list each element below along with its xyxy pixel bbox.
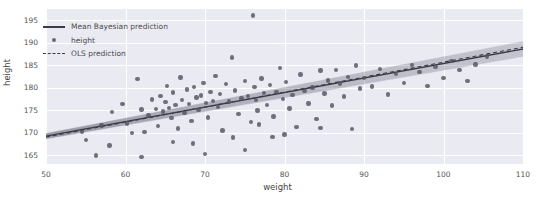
data-point	[178, 75, 182, 79]
data-point	[154, 107, 158, 111]
data-point	[182, 111, 186, 115]
x-axis-label: weight	[0, 182, 555, 192]
legend-label: Mean Bayesian prediction	[71, 22, 168, 31]
data-point	[465, 79, 469, 83]
data-point	[252, 85, 256, 89]
data-point	[449, 59, 453, 63]
data-point	[230, 55, 234, 59]
data-point	[204, 101, 208, 105]
legend-item-height: height	[43, 36, 168, 45]
data-point	[236, 112, 240, 116]
x-tick-label: 60	[106, 170, 146, 179]
data-point	[208, 90, 212, 94]
data-point	[314, 117, 318, 121]
legend-item-mean-bayesian-prediction: Mean Bayesian prediction	[43, 22, 168, 31]
data-point	[417, 70, 421, 74]
x-tick-label: 50	[26, 170, 66, 179]
data-point	[259, 76, 263, 80]
data-point	[265, 103, 269, 107]
data-point	[310, 85, 314, 89]
dot-marker-icon	[43, 36, 65, 45]
data-point	[394, 72, 398, 76]
data-point	[107, 143, 111, 147]
y-tick-label: 180	[8, 83, 38, 92]
y-tick-label: 185	[8, 61, 38, 70]
y-tick-label: 165	[8, 151, 38, 160]
data-point	[274, 90, 278, 94]
data-point	[370, 84, 374, 88]
data-point	[290, 93, 294, 97]
data-point	[216, 105, 220, 109]
data-point	[194, 95, 198, 99]
data-point	[270, 135, 274, 139]
data-point	[322, 91, 326, 95]
data-point	[425, 84, 429, 88]
data-point	[318, 68, 322, 72]
data-point	[206, 115, 210, 119]
data-point	[326, 78, 330, 82]
legend-item-ols-prediction: OLS prediction	[43, 49, 168, 58]
data-point	[231, 135, 235, 139]
data-point	[271, 114, 275, 118]
data-point	[199, 93, 203, 97]
y-axis-label: height	[2, 59, 12, 86]
data-point	[457, 68, 461, 72]
data-point	[354, 63, 358, 67]
data-point	[201, 81, 205, 85]
legend: Mean Bayesian prediction height OLS pred…	[38, 19, 173, 61]
data-point	[278, 66, 282, 70]
data-point	[146, 113, 150, 117]
data-point	[287, 106, 291, 110]
dashed-line-icon	[43, 49, 65, 58]
data-point	[358, 86, 362, 90]
data-point	[165, 84, 169, 88]
data-point	[318, 126, 322, 130]
legend-label: height	[71, 36, 95, 45]
data-point	[342, 94, 346, 98]
data-point	[243, 79, 247, 83]
data-point	[257, 122, 261, 126]
data-point	[84, 138, 88, 142]
data-point	[120, 102, 124, 106]
data-point	[185, 87, 189, 91]
data-point	[306, 101, 310, 105]
data-point	[473, 62, 477, 66]
data-point	[227, 99, 231, 103]
data-point	[255, 108, 259, 112]
y-tick-label: 175	[8, 106, 38, 115]
data-point	[158, 94, 162, 98]
data-point	[254, 98, 258, 102]
data-point	[441, 76, 445, 80]
data-point	[191, 141, 195, 145]
data-point	[161, 109, 165, 113]
data-point	[251, 13, 255, 17]
data-point	[135, 77, 139, 81]
data-point	[99, 123, 103, 127]
x-tick-label: 90	[344, 170, 384, 179]
data-point	[139, 107, 143, 111]
data-point	[294, 125, 298, 129]
regression-chart: 165170175180185190195 5060708090100110 h…	[0, 0, 555, 201]
data-point	[94, 153, 98, 157]
data-point	[239, 96, 243, 100]
data-point	[125, 121, 129, 125]
data-point	[298, 72, 302, 76]
data-point	[233, 88, 237, 92]
data-point	[176, 126, 180, 130]
legend-label: OLS prediction	[71, 49, 126, 58]
data-point	[139, 155, 143, 159]
x-tick-label: 110	[503, 170, 543, 179]
x-tick-label: 100	[424, 170, 464, 179]
data-point	[150, 97, 154, 101]
data-point	[302, 89, 306, 93]
solid-line-icon	[43, 22, 65, 31]
data-point	[282, 132, 286, 136]
data-point	[378, 67, 382, 71]
data-point	[213, 74, 217, 78]
y-tick-label: 170	[8, 128, 38, 137]
y-tick-label: 195	[8, 16, 38, 25]
data-point	[163, 100, 167, 104]
data-point	[224, 82, 228, 86]
x-tick-label: 70	[185, 170, 225, 179]
data-point	[142, 130, 146, 134]
